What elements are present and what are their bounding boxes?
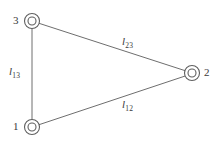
diagram-canvas [0, 0, 221, 144]
node-1-inner-ring [28, 123, 36, 131]
edge-label-l23: l23 [122, 36, 133, 47]
node-1[interactable] [25, 120, 40, 135]
edge-line-l23 [39, 23, 185, 70]
node-label-2: 2 [204, 67, 210, 78]
edge-label-l12: l12 [122, 99, 133, 110]
node-label-1: 1 [13, 121, 19, 132]
node-2-inner-ring [188, 69, 196, 77]
edge-label-l13: l13 [9, 66, 20, 77]
nodes-group [25, 14, 200, 135]
edge-lines-group [32, 23, 185, 124]
node-3-inner-ring [28, 17, 36, 25]
node-2[interactable] [185, 66, 200, 81]
node-3[interactable] [25, 14, 40, 29]
network-diagram-figure: 3 2 1 l13 l23 l12 [0, 0, 221, 144]
node-label-3: 3 [13, 15, 19, 26]
edge-line-l12 [39, 76, 185, 125]
